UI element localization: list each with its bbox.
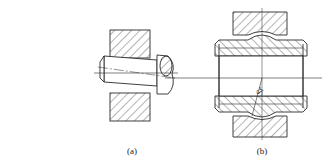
pin-chamfer [100,56,104,82]
panel-b-label: (b) [257,146,268,156]
housing-top [233,12,287,35]
panel-b [165,8,322,140]
panel-a [94,30,178,121]
housing-lower-block [110,93,150,121]
panel-a-label: (a) [127,146,137,156]
technical-drawing [0,0,322,164]
housing-bottom [233,116,287,137]
housing-upper-block [110,30,150,58]
pin-body [104,56,157,86]
sleeve-lower [215,96,307,117]
sleeve-upper [215,35,307,56]
